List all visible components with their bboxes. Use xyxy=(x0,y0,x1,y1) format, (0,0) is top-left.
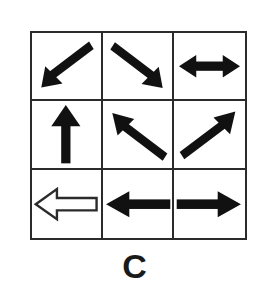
arrow-grid-figure: C xyxy=(0,0,269,290)
arrow-up-icon xyxy=(32,101,101,167)
grid-cell-r3c2 xyxy=(103,170,174,238)
arrow-right-icon xyxy=(174,170,245,238)
arrow-left-right-icon xyxy=(174,33,245,99)
grid-cell-r2c3 xyxy=(174,101,245,169)
grid-cell-r2c2 xyxy=(103,101,174,169)
arrow-grid xyxy=(30,31,247,240)
grid-cell-r1c1 xyxy=(32,33,103,101)
figure-label: C xyxy=(0,246,269,286)
arrow-up-left-icon xyxy=(103,101,172,167)
arrow-up-right-icon xyxy=(174,101,245,167)
arrow-down-right-icon xyxy=(103,33,172,99)
grid-cell-r1c2 xyxy=(103,33,174,101)
grid-cell-r3c1 xyxy=(32,170,103,238)
arrow-left-icon xyxy=(103,170,172,238)
grid-cell-r3c3 xyxy=(174,170,245,238)
grid-cell-r1c3 xyxy=(174,33,245,101)
arrow-left-outline-icon xyxy=(32,170,101,238)
grid-cell-r2c1 xyxy=(32,101,103,169)
arrow-down-left-icon xyxy=(32,33,101,99)
